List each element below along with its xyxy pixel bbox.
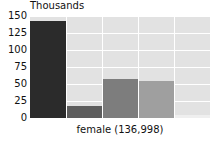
- y-tick-label: 0: [21, 113, 27, 123]
- bar-slot: [138, 16, 174, 118]
- bar: [66, 106, 102, 118]
- y-tick-label: 25: [14, 96, 27, 106]
- gridline-vertical: [102, 16, 103, 118]
- chart-unit-title: Thousands: [30, 0, 84, 12]
- y-tick-label: 50: [14, 79, 27, 89]
- chart-screenshot: Thousands 0255075100125150 female (136,9…: [0, 0, 216, 144]
- y-axis: 0255075100125150: [0, 16, 27, 118]
- gridline-vertical: [174, 16, 175, 118]
- gridline-vertical: [66, 16, 67, 118]
- y-tick-label: 100: [8, 45, 27, 55]
- bar: [138, 81, 174, 118]
- bar-slot: [102, 16, 138, 118]
- y-tick-label: 150: [8, 11, 27, 21]
- bar-slot: [174, 16, 210, 118]
- x-axis-label: female (136,998): [30, 124, 210, 136]
- bar: [102, 79, 138, 118]
- plot-area: [30, 16, 210, 118]
- bar-slot: [30, 16, 66, 118]
- y-tick-label: 75: [14, 62, 27, 72]
- bar-slot: [66, 16, 102, 118]
- gridline-vertical: [138, 16, 139, 118]
- bar: [30, 21, 66, 118]
- bar: [174, 115, 210, 118]
- y-tick-label: 125: [8, 28, 27, 38]
